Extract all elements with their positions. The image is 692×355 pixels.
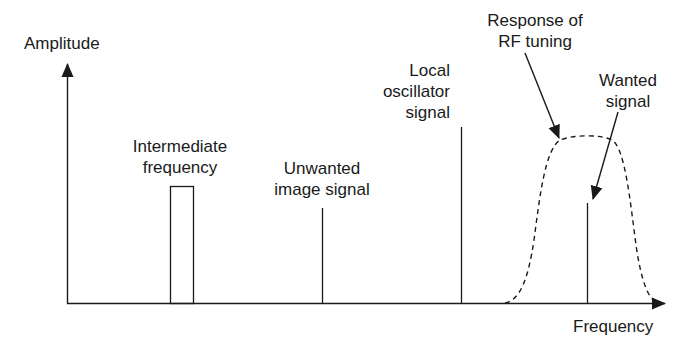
label-line: RF tuning bbox=[470, 31, 600, 52]
label-line: Intermediate bbox=[120, 136, 240, 157]
wanted-signal-pointer bbox=[593, 112, 618, 199]
intermediate-frequency-bar bbox=[171, 187, 194, 304]
rf-response-pointer bbox=[525, 53, 559, 138]
label-line: Local bbox=[370, 60, 450, 81]
label-line: signal bbox=[588, 91, 668, 112]
rf-response-curve bbox=[505, 136, 656, 303]
label-line: frequency bbox=[120, 157, 240, 178]
label-line: Wanted bbox=[588, 70, 668, 91]
label-line: Unwanted bbox=[262, 158, 382, 179]
label-line: Response of bbox=[470, 10, 600, 31]
wanted-signal-label: Wanted signal bbox=[588, 70, 668, 112]
local-oscillator-label: Local oscillator signal bbox=[370, 60, 450, 123]
y-axis-label: Amplitude bbox=[24, 33, 100, 54]
x-axis-label: Frequency bbox=[573, 316, 653, 337]
label-line: image signal bbox=[262, 179, 382, 200]
intermediate-frequency-label: Intermediate frequency bbox=[120, 136, 240, 178]
rf-response-label: Response of RF tuning bbox=[470, 10, 600, 52]
label-line: signal bbox=[370, 102, 450, 123]
label-line: oscillator bbox=[370, 81, 450, 102]
image-signal-label: Unwanted image signal bbox=[262, 158, 382, 200]
